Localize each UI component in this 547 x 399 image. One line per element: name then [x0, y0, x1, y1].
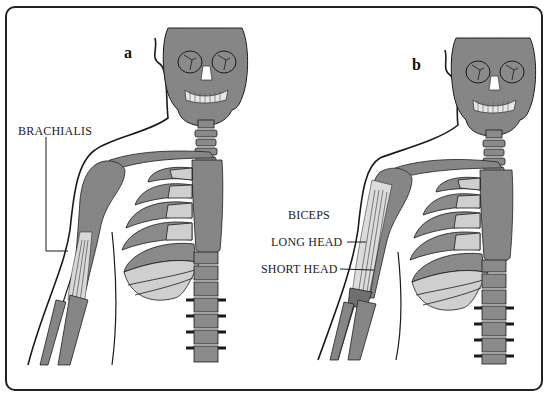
- long-head-label: LONG HEAD: [271, 235, 342, 250]
- panel-letter-b: b: [412, 56, 421, 74]
- biceps-label: BICEPS: [288, 208, 330, 223]
- ribcage-b: [410, 177, 488, 310]
- ribcage-a: [122, 167, 200, 300]
- panel-b-skeleton: [318, 38, 536, 364]
- anatomy-illustration: [0, 0, 547, 399]
- short-head-label: SHORT HEAD: [261, 262, 338, 277]
- panel-a-skeleton: [28, 28, 248, 365]
- brachialis-label: BRACHIALIS: [18, 124, 92, 139]
- panel-letter-a: a: [124, 44, 132, 62]
- brachialis-muscle: [68, 232, 92, 305]
- sternum-b: [480, 170, 513, 263]
- brachialis-leader-line: [46, 137, 68, 251]
- sternum-a: [192, 160, 223, 255]
